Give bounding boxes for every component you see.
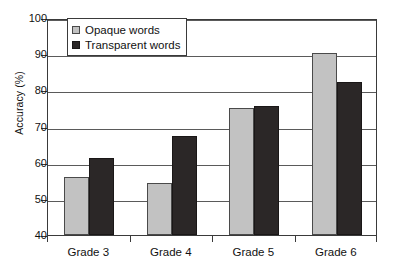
bar bbox=[254, 106, 279, 235]
y-tick-label: 80 bbox=[13, 85, 47, 96]
x-tick-mark bbox=[130, 236, 131, 242]
bar bbox=[172, 136, 197, 235]
x-axis-labels: Grade 3Grade 4Grade 5Grade 6 bbox=[47, 246, 377, 266]
legend-item: Transparent words bbox=[72, 37, 180, 52]
legend-swatch-icon bbox=[72, 41, 80, 49]
y-tick-label: 40 bbox=[13, 230, 47, 241]
y-axis-ticks: 405060708090100 bbox=[0, 0, 47, 280]
legend: Opaque wordsTransparent words bbox=[67, 18, 187, 56]
x-axis-ticks bbox=[47, 236, 377, 244]
y-tick-label: 50 bbox=[13, 194, 47, 205]
legend-label: Transparent words bbox=[85, 39, 180, 51]
legend-item: Opaque words bbox=[72, 22, 180, 37]
bar bbox=[337, 82, 362, 235]
y-tick-label: 100 bbox=[13, 13, 47, 24]
x-tick-mark bbox=[212, 236, 213, 242]
x-tick-label: Grade 4 bbox=[131, 246, 211, 258]
x-tick-label: Grade 3 bbox=[48, 246, 128, 258]
bar bbox=[147, 183, 172, 235]
legend-swatch-icon bbox=[72, 26, 80, 34]
bar bbox=[229, 108, 254, 235]
bar-chart: Accuracy (%) 405060708090100 Grade 3Grad… bbox=[0, 0, 395, 280]
x-tick-mark bbox=[295, 236, 296, 242]
x-tick-label: Grade 5 bbox=[213, 246, 293, 258]
bar bbox=[312, 53, 337, 235]
bar bbox=[64, 177, 89, 235]
x-tick-label: Grade 6 bbox=[296, 246, 376, 258]
x-tick-mark bbox=[47, 236, 48, 242]
bar bbox=[89, 158, 114, 235]
y-tick-label: 70 bbox=[13, 122, 47, 133]
x-tick-mark bbox=[376, 236, 377, 242]
y-tick-label: 60 bbox=[13, 158, 47, 169]
y-tick-label: 90 bbox=[13, 49, 47, 60]
legend-label: Opaque words bbox=[85, 24, 160, 36]
